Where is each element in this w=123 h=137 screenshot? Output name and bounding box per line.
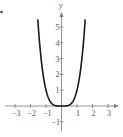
x-tick-label: 2 [92, 109, 96, 118]
x-tick-label: 1 [76, 109, 80, 118]
function-graph: −3−2−1123 −112345 y [0, 0, 123, 137]
bullet-dot [0, 11, 2, 13]
x-axis-arrow-icon [114, 104, 119, 108]
y-axis-label: y [58, 1, 63, 10]
y-tick-label: 5 [56, 23, 60, 32]
x-tick-label: −2 [28, 109, 37, 118]
x-tick-label: −1 [43, 109, 52, 118]
y-tick-label: −1 [52, 118, 61, 127]
x-tick-label: 3 [107, 109, 111, 118]
y-tick-label: 2 [56, 70, 60, 79]
y-tick-label: 1 [56, 86, 60, 95]
axes [5, 12, 119, 131]
x-tick-label: −3 [12, 109, 21, 118]
y-axis-arrow-icon [60, 12, 64, 17]
y-tick-label: 3 [56, 55, 60, 64]
y-tick-label: 4 [56, 39, 60, 48]
